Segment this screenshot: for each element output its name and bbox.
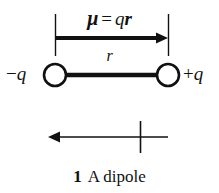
negative-charge-circle: [44, 64, 66, 86]
mu-symbol: μ: [87, 7, 98, 29]
separation-label: r: [0, 48, 219, 64]
figure-caption: 1A dipole: [0, 168, 219, 185]
figure-caption-text: A dipole: [88, 167, 146, 186]
figure-number: 1: [73, 167, 82, 186]
separation-symbol: r: [124, 8, 131, 29]
positive-charge-label: +q: [183, 64, 203, 83]
dipole-moment-arrowhead: [156, 33, 168, 44]
convention-arrowhead: [48, 132, 60, 143]
dipole-figure: μ=qr r −q +q 1A dipole: [0, 0, 219, 193]
negative-charge-label: −q: [6, 64, 26, 83]
negative-sign: −: [6, 63, 17, 84]
dipole-moment-equation: μ=qr: [0, 8, 219, 28]
negative-charge-symbol: q: [17, 63, 27, 84]
positive-sign: +: [183, 63, 194, 84]
equals-symbol: =: [101, 8, 112, 29]
positive-charge-symbol: q: [194, 63, 204, 84]
positive-charge-circle: [157, 64, 179, 86]
